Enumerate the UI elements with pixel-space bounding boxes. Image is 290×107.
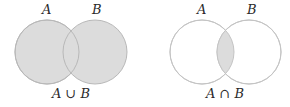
intersection-caption: A ∩ B <box>205 86 244 101</box>
union-diagram: A B A ∪ B <box>15 2 127 101</box>
set-b-circle <box>63 20 127 84</box>
set-b-label: B <box>246 2 257 17</box>
intersection-diagram: A B A ∩ B <box>170 2 281 101</box>
union-caption: A ∪ B <box>51 86 90 101</box>
set-b-label: B <box>91 2 102 17</box>
set-a-label: A <box>41 2 51 17</box>
venn-diagrams: A B A ∪ B A B A ∩ B <box>0 0 290 107</box>
set-a-label: A <box>196 2 206 17</box>
